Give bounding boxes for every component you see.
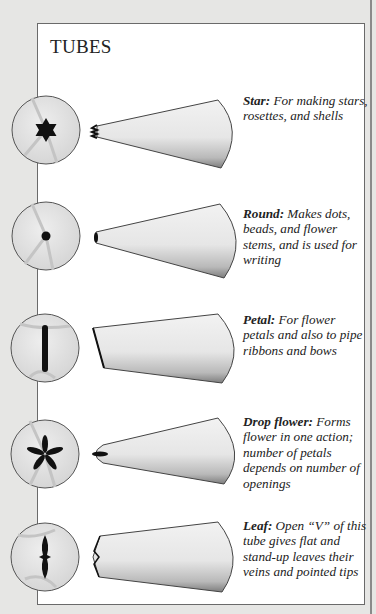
tube-name: Star:: [243, 93, 270, 108]
tube-side-view: [92, 100, 232, 168]
tube-description: Drop flower: Forms flower in one action;…: [243, 414, 368, 491]
tube-description: Round: Makes dots, beads, and flower ste…: [243, 206, 368, 268]
tube-description: Petal: For flower petals and also to pip…: [243, 312, 368, 358]
tube-name: Drop flower:: [243, 414, 313, 429]
petal-slit-icon: [42, 325, 48, 372]
tube-side-view: [93, 522, 233, 592]
tube-row-leaf: Leaf: Open “V” of this tube gives flat a…: [0, 517, 376, 614]
tube-row-petal: Petal: For flower petals and also to pip…: [0, 308, 376, 418]
tube-side-view: [94, 204, 236, 278]
tube-description: Leaf: Open “V” of this tube gives flat a…: [243, 518, 368, 580]
dot-icon: [42, 232, 51, 241]
tube-end-view: [11, 420, 79, 488]
tube-row-drop-flower: Drop flower: Forms flower in one action;…: [0, 415, 376, 525]
tube-row-round: Round: Makes dots, beads, and flower ste…: [0, 198, 376, 308]
tube-side-view: [93, 314, 234, 383]
tube-description: Star: For making stars, rosettes, and sh…: [243, 93, 368, 124]
tube-name: Petal:: [243, 312, 275, 327]
tube-row-star: Star: For making stars, rosettes, and sh…: [0, 85, 376, 195]
page-title: TUBES: [50, 36, 112, 58]
tube-side-view: [92, 418, 235, 484]
tube-name: Leaf:: [243, 518, 272, 533]
tube-name: Round:: [243, 206, 284, 221]
